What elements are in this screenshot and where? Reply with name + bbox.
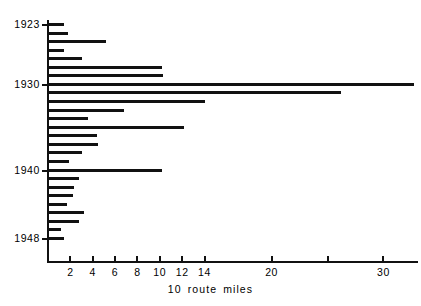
y-tick-label-1940: 1940 (14, 165, 40, 175)
x-axis-line (47, 261, 418, 263)
bar-1925 (48, 40, 106, 43)
bar-1927 (48, 57, 82, 60)
bar-1924 (48, 32, 68, 35)
x-tick-4 (92, 256, 94, 262)
bar-1928 (48, 66, 162, 69)
bar-1935 (48, 126, 184, 129)
y-tick-1948 (42, 238, 50, 240)
bar-1923 (48, 23, 64, 26)
y-tick-1930 (42, 84, 50, 86)
bar-1944 (48, 203, 67, 206)
bar-1946 (48, 220, 79, 223)
bar-1926 (48, 49, 64, 52)
bar-1930 (48, 83, 414, 86)
y-tick-label-1948: 1948 (14, 233, 40, 243)
x-tick-label-14: 14 (192, 266, 218, 278)
bar-1934 (48, 117, 88, 120)
x-tick-2 (69, 256, 71, 262)
x-tick-30 (382, 256, 384, 262)
x-axis-title: 10 route miles (0, 283, 421, 295)
bar-1933 (48, 109, 124, 112)
y-tick-label-1923: 1923 (14, 19, 40, 29)
x-tick-12 (181, 256, 183, 262)
plot-area: 1923193019401948 24681012142030 (0, 0, 421, 306)
bar-1938 (48, 151, 82, 154)
x-tick-8 (136, 256, 138, 262)
bar-1947 (48, 228, 61, 231)
y-tick-label-wrap-1930: 1930 (0, 79, 40, 90)
x-tick-20 (271, 256, 273, 262)
bar-1936 (48, 134, 97, 137)
x-tick-14 (204, 256, 206, 262)
y-tick-label-1930: 1930 (14, 79, 40, 89)
x-tick-10 (159, 256, 161, 262)
bar-1939 (48, 160, 69, 163)
bar-1931 (48, 91, 341, 94)
x-tick-6 (114, 256, 116, 262)
route-miles-bar-chart: 1923193019401948 24681012142030 10 route… (0, 0, 421, 306)
bar-1943 (48, 194, 73, 197)
bar-1942 (48, 186, 74, 189)
bar-1940 (48, 169, 162, 172)
bar-1929 (48, 74, 163, 77)
bar-1937 (48, 143, 98, 146)
y-tick-label-wrap-1940: 1940 (0, 165, 40, 176)
bar-1948 (48, 237, 64, 240)
y-tick-label-wrap-1948: 1948 (0, 233, 40, 244)
x-tick-label-20: 20 (259, 266, 285, 278)
y-tick-1940 (42, 170, 50, 172)
bar-1941 (48, 177, 79, 180)
bar-1945 (48, 211, 84, 214)
y-tick-label-wrap-1923: 1923 (0, 19, 40, 30)
bar-1932 (48, 100, 205, 103)
x-tick-25 (327, 256, 329, 262)
x-tick-label-30: 30 (370, 266, 396, 278)
y-tick-1923 (42, 24, 50, 26)
